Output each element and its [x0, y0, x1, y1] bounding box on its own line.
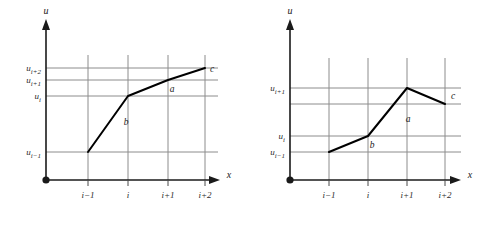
y-tick-labels: ui+2 ui+1 ui ui−1 — [26, 63, 41, 160]
panel-left-plot: u x ui+2 ui+1 ui ui−1 i−1 i — [0, 0, 242, 225]
horizontal-gridlines — [290, 88, 461, 152]
panel-right-plot: u x ui+1 ui ui−1 i−1 i i+1 i+2 — [243, 0, 485, 225]
x-tick-label-im1: i−1 — [322, 190, 335, 200]
y-axis — [286, 19, 294, 180]
y-axis-label: u — [44, 5, 49, 16]
x-tick-label-im1: i−1 — [81, 190, 94, 200]
y-tick-label-uim1: ui−1 — [26, 147, 41, 160]
figure-container: u x ui+2 ui+1 ui ui−1 i−1 i — [0, 0, 485, 225]
origin-marker — [286, 176, 293, 183]
data-curve — [88, 68, 205, 152]
x-tick-label-ip1: i+1 — [161, 190, 174, 200]
origin-marker — [42, 176, 49, 183]
x-tick-label-i: i — [367, 190, 370, 200]
panel-right: u x ui+1 ui ui−1 i−1 i i+1 i+2 — [243, 0, 485, 225]
y-axis-label: u — [288, 5, 293, 16]
y-tick-label-ui1: ui+1 — [26, 75, 41, 88]
x-tick-label-ip1: i+1 — [400, 190, 413, 200]
x-axis-label: x — [226, 169, 232, 180]
x-tick-label-ip2: i+2 — [198, 190, 212, 200]
y-axis — [42, 19, 50, 180]
x-axis — [290, 176, 461, 184]
x-axis-ticks — [88, 180, 205, 186]
x-axis — [46, 176, 220, 184]
segment-label-c: c — [210, 64, 215, 74]
x-axis-ticks — [329, 180, 445, 186]
y-tick-label-uim1: ui−1 — [270, 147, 285, 160]
segment-label-b: b — [370, 140, 375, 150]
x-axis-label: x — [467, 169, 473, 180]
x-tick-labels: i−1 i i+1 i+2 — [322, 190, 452, 200]
x-tick-label-i: i — [127, 190, 130, 200]
y-tick-labels: ui+1 ui ui−1 — [270, 83, 285, 160]
y-tick-label-ui2: ui+2 — [26, 63, 41, 76]
panel-left: u x ui+2 ui+1 ui ui−1 i−1 i — [0, 0, 242, 225]
y-tick-label-ui1: ui+1 — [270, 83, 285, 96]
y-tick-label-ui: ui — [279, 131, 286, 144]
x-tick-label-ip2: i+2 — [438, 190, 452, 200]
x-tick-labels: i−1 i i+1 i+2 — [81, 190, 212, 200]
segment-label-a: a — [170, 84, 175, 94]
y-tick-label-ui: ui — [35, 91, 42, 104]
vertical-gridlines — [329, 58, 445, 180]
segment-label-c: c — [451, 91, 456, 101]
segment-label-a: a — [406, 114, 411, 124]
data-curve — [329, 88, 445, 152]
horizontal-gridlines — [46, 68, 218, 152]
segment-label-b: b — [124, 117, 129, 127]
